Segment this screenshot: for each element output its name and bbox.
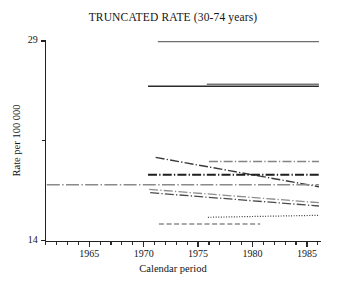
series-9-descending-dashdot-dark [150, 193, 319, 206]
series-svg [0, 0, 346, 290]
y-axis-title: Rate per 100 000 [11, 81, 22, 201]
series-8-descending-dashdot-gray [149, 189, 319, 202]
series-10-dotted [208, 215, 319, 217]
x-axis-title: Calendar period [0, 263, 346, 274]
chart-root: TRUNCATED RATE (30-74 years) 1429 196519… [0, 0, 346, 290]
series-lines [0, 0, 346, 290]
